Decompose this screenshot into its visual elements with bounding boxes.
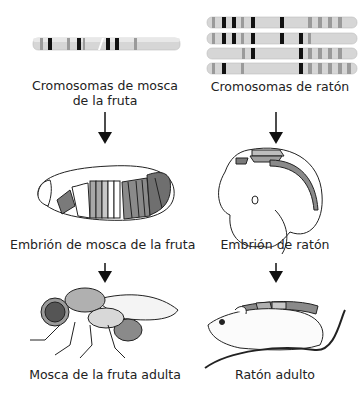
mouse-chromosome-label: Cromosomas de ratón: [205, 79, 355, 94]
adult-mouse-label: Ratón adulto: [225, 367, 325, 382]
fly-chromosome: [0, 0, 360, 396]
adult-mouse-illustration: [205, 302, 345, 369]
adult-fly-illustration: [30, 288, 178, 358]
fly-chromosome-label-line1: Cromosomas de mosca: [30, 78, 180, 93]
mouse-embryo-label: Embrión de ratón: [215, 237, 335, 252]
fly-chromosome-label-line2: de la fruta: [30, 93, 180, 108]
fly-embryo-illustration: [38, 166, 174, 221]
fly-chromosome-label: Cromosomas de mosca de la fruta: [30, 78, 180, 108]
mouse-chromosomes: [207, 17, 357, 74]
fly-embryo-label: Embrión de mosca de la fruta: [10, 237, 190, 252]
adult-fly-label: Mosca de la fruta adulta: [20, 367, 190, 382]
